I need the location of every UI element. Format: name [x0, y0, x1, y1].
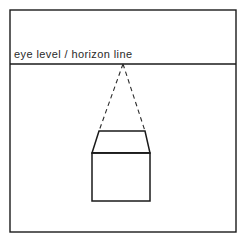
cube-front-face	[92, 153, 150, 201]
perspective-diagram-figure: eye level / horizon line	[0, 0, 246, 243]
diagram-canvas: eye level / horizon line	[0, 0, 246, 243]
cube-top-face	[92, 131, 150, 153]
right-sight-line	[123, 64, 145, 131]
horizon-label: eye level / horizon line	[14, 48, 132, 60]
left-sight-line	[99, 64, 123, 131]
